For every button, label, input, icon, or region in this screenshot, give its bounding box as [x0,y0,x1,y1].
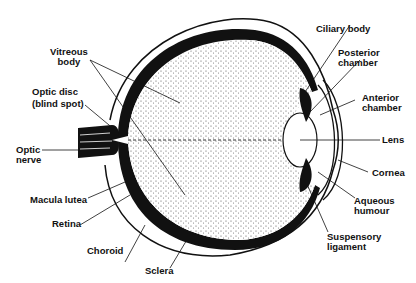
label-aqueous-humour: Aqueoushumour [354,196,395,216]
label-sclera: Sclera [145,266,174,276]
label-ciliary-body: Ciliary body [316,24,370,34]
label-cornea: Cornea [372,168,405,178]
label-macula-lutea: Macula lutea [30,195,87,205]
label-suspensory-ligament: Suspensoryligament [327,232,381,252]
label-optic-nerve: Opticnerve [16,145,41,165]
label-choroid: Choroid [87,246,123,256]
label-anterior-chamber: Anteriorchamber [362,93,402,113]
label-vitreous-body: Vitreousbody [50,47,88,67]
label-optic-disc: Optic disc(blind spot) [32,87,84,111]
label-posterior-chamber: Posteriorchamber [338,48,380,68]
label-retina: Retina [52,219,81,229]
label-lens: Lens [382,135,404,145]
